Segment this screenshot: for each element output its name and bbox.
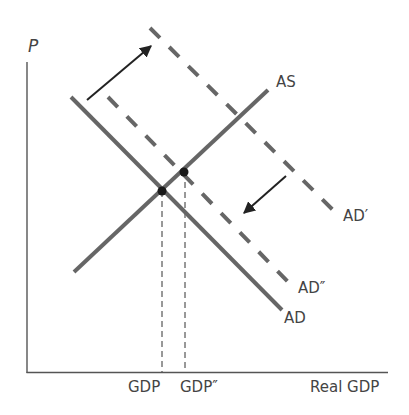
shift-left-arrow-icon [244, 176, 286, 213]
ad-double-prime-label: AD″ [298, 281, 325, 296]
gdp-double-prime-tick-label: GDP″ [180, 380, 218, 395]
as-curve [74, 90, 268, 272]
as-label: AS [276, 75, 296, 90]
y-axis-label: P [28, 38, 38, 55]
ad-label: AD [284, 311, 306, 326]
equilibrium-point-gdp [158, 187, 167, 196]
gdp-tick-label: GDP [128, 380, 160, 395]
ad-prime-label: AD′ [343, 209, 368, 224]
ad-prime-curve [150, 28, 338, 215]
x-axis-label: Real GDP [310, 380, 379, 395]
equilibrium-point-gdp-double-prime [180, 168, 189, 177]
shift-right-arrow-icon [87, 46, 151, 100]
